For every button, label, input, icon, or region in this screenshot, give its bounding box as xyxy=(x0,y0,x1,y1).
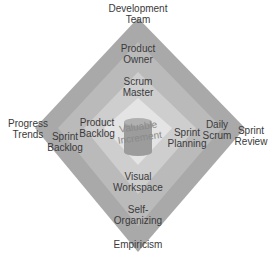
label-sprint-planning: Sprint Planning xyxy=(168,127,207,149)
label-progress-trends: Progress Trends xyxy=(8,118,48,140)
label-sprint-review: Sprint Review xyxy=(235,125,268,147)
label-self-organizing: Self- Organizing xyxy=(114,204,162,226)
label-product-backlog: Product Backlog xyxy=(79,117,115,139)
label-empiricism: Empiricism xyxy=(114,239,163,250)
label-sprint-backlog: Sprint Backlog xyxy=(47,131,83,153)
label-visual-workspace: Visual Workspace xyxy=(113,171,163,193)
label-development-team: Development Team xyxy=(109,3,168,25)
label-daily-scrum: Daily Scrum xyxy=(203,119,232,141)
label-product-owner: Product Owner xyxy=(121,43,155,65)
label-scrum-master: Scrum Master xyxy=(123,76,154,98)
